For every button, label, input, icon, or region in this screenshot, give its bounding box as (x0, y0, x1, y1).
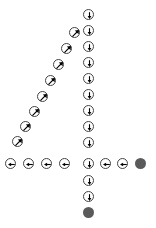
arrow-down-icon (83, 158, 94, 169)
arrow-down-icon (83, 121, 94, 132)
filled-endpoint-dot (135, 158, 146, 169)
arrow-down-icon-glyph (84, 159, 93, 168)
arrow-up-right-icon-glyph (54, 60, 63, 69)
arrow-down-icon (83, 191, 94, 202)
arrow-down-icon-glyph (84, 74, 93, 83)
arrow-up-right-icon (53, 59, 64, 70)
arrow-down-icon (83, 57, 94, 68)
arrow-up-right-icon (45, 75, 56, 86)
arrow-up-right-icon (69, 27, 80, 38)
arrow-left-icon-glyph (42, 159, 51, 168)
arrow-left-icon (5, 158, 16, 169)
arrow-down-icon (83, 105, 94, 116)
arrow-down-icon-glyph (84, 122, 93, 131)
diagram-canvas (0, 0, 156, 228)
arrow-down-icon (83, 89, 94, 100)
arrow-down-icon-glyph (84, 138, 93, 147)
arrow-down-icon-glyph (84, 10, 93, 19)
arrow-down-icon-glyph (84, 192, 93, 201)
arrow-down-icon-glyph (84, 176, 93, 185)
arrow-up-right-icon-glyph (38, 92, 47, 101)
arrow-down-icon (83, 137, 94, 148)
arrow-up-right-icon (29, 106, 40, 117)
arrow-left-icon (100, 158, 111, 169)
arrow-up-right-icon (37, 91, 48, 102)
arrow-down-icon-glyph (84, 58, 93, 67)
filled-endpoint-dot (83, 207, 94, 218)
arrow-up-right-icon-glyph (13, 137, 22, 146)
arrow-down-icon (83, 73, 94, 84)
arrow-up-right-icon (12, 136, 23, 147)
arrow-up-right-icon-glyph (21, 122, 30, 131)
arrow-up-right-icon-glyph (62, 44, 71, 53)
arrow-up-right-icon (61, 43, 72, 54)
arrow-up-right-icon-glyph (30, 107, 39, 116)
arrow-down-icon (83, 175, 94, 186)
arrow-left-icon (117, 158, 128, 169)
arrow-left-icon-glyph (60, 159, 69, 168)
arrow-down-icon-glyph (84, 90, 93, 99)
arrow-left-icon (59, 158, 70, 169)
arrow-down-icon (83, 25, 94, 36)
arrow-up-right-icon (20, 121, 31, 132)
arrow-left-icon-glyph (118, 159, 127, 168)
arrow-left-icon (41, 158, 52, 169)
arrow-down-icon-glyph (84, 26, 93, 35)
arrow-up-right-icon-glyph (70, 28, 79, 37)
arrow-down-icon (83, 9, 94, 20)
arrow-left-icon-glyph (6, 159, 15, 168)
arrow-left-icon-glyph (101, 159, 110, 168)
arrow-up-right-icon-glyph (46, 76, 55, 85)
arrow-left-icon-glyph (24, 159, 33, 168)
arrow-down-icon-glyph (84, 106, 93, 115)
arrow-down-icon-glyph (84, 42, 93, 51)
arrow-down-icon (83, 41, 94, 52)
arrow-left-icon (23, 158, 34, 169)
